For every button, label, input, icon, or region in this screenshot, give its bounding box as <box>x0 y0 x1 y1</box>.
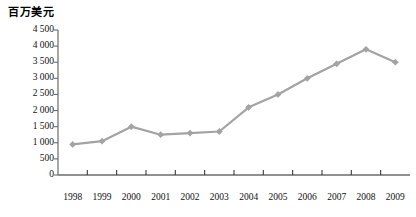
x-tick-label: 1999 <box>93 192 112 202</box>
plot-area <box>0 0 416 217</box>
y-tick-label: 500 <box>12 154 54 164</box>
y-tick-label: 1 000 <box>12 138 54 148</box>
x-tick-label: 2001 <box>151 192 170 202</box>
x-tick-label: 1998 <box>63 192 82 202</box>
data-point-marker <box>157 131 164 138</box>
y-tick-label: 3 500 <box>12 57 54 67</box>
chart-svg <box>0 0 416 217</box>
y-tick-label: 4 000 <box>12 41 54 51</box>
x-tick-label: 2003 <box>210 192 229 202</box>
y-tick-label: 3 000 <box>12 74 54 84</box>
y-tick-label: 4 500 <box>12 25 54 35</box>
data-point-marker <box>392 59 399 66</box>
y-tick-label: 0 <box>12 170 54 180</box>
data-point-marker <box>187 130 194 137</box>
x-tick-label: 2007 <box>327 192 346 202</box>
x-tick-label: 2009 <box>386 192 405 202</box>
data-series-line <box>73 49 396 144</box>
x-tick-label: 2005 <box>269 192 288 202</box>
y-tick-label: 2 000 <box>12 106 54 116</box>
chart-container: 百万美元 05001 0001 5002 0002 5003 0003 5004… <box>0 0 416 217</box>
x-tick-label: 2002 <box>181 192 200 202</box>
x-tick-label: 2006 <box>298 192 317 202</box>
data-point-marker <box>69 141 76 148</box>
y-tick-label: 2 500 <box>12 90 54 100</box>
y-tick-label: 1 500 <box>12 122 54 132</box>
x-tick-label: 2004 <box>239 192 258 202</box>
x-tick-label: 2000 <box>122 192 141 202</box>
axes-group <box>58 30 410 175</box>
x-tick-label: 2008 <box>357 192 376 202</box>
